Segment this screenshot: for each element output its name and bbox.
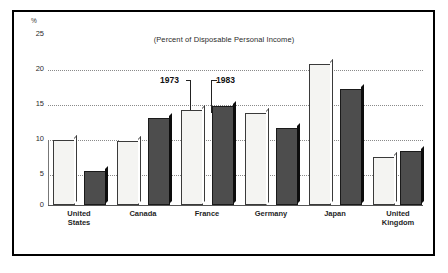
chart-title: (Percent of Disposable Personal Income) <box>0 35 448 44</box>
bar-united-kingdom-1983 <box>400 151 422 205</box>
bar-united-kingdom-1973 <box>373 157 395 205</box>
y-tick-20: 20 <box>28 64 44 73</box>
y-tick-5: 5 <box>28 169 44 178</box>
x-axis-baseline <box>48 205 423 206</box>
gridline-20 <box>48 70 423 71</box>
category-label-united-kingdom-line1: United <box>363 209 433 218</box>
category-label-germany: Germany <box>236 209 306 218</box>
bar-france-1973 <box>181 110 203 205</box>
bar-canada-1973 <box>117 141 139 205</box>
category-label-canada-line1: Canada <box>108 209 178 218</box>
category-label-france: France <box>172 209 242 218</box>
bar-japan-1973 <box>309 64 331 205</box>
category-label-united-states-line2: States <box>44 218 114 227</box>
category-label-united-kingdom-line2: Kingdom <box>363 218 433 227</box>
bar-canada-1983 <box>148 118 170 205</box>
category-label-canada: Canada <box>108 209 178 218</box>
bar-germany-1983 <box>276 128 298 205</box>
category-label-japan-line1: Japan <box>300 209 370 218</box>
y-tick-0: 0 <box>28 200 44 209</box>
chart-figure: % 25 20 15 10 5 0 (Percent of Disposable… <box>0 0 448 273</box>
bar-japan-1983 <box>340 89 362 205</box>
plot-area: % 25 20 15 10 5 0 (Percent of Disposable… <box>0 0 448 273</box>
annotation-1983: 1983 <box>216 75 235 85</box>
bar-france-1983 <box>212 106 234 205</box>
category-label-japan: Japan <box>300 209 370 218</box>
y-axis-line <box>48 140 49 205</box>
category-label-france-line1: France <box>172 209 242 218</box>
annotation-1973: 1973 <box>160 75 179 85</box>
category-label-united-states: United States <box>44 209 114 227</box>
y-tick-10: 10 <box>28 134 44 143</box>
category-label-united-states-line1: United <box>44 209 114 218</box>
bar-united-states-1973 <box>53 140 75 205</box>
bar-germany-1973 <box>245 113 267 206</box>
annotation-1983-leader-line <box>211 80 212 113</box>
category-label-united-kingdom: United Kingdom <box>363 209 433 227</box>
bar-united-states-1983 <box>84 171 106 205</box>
y-axis-unit-label: % <box>31 17 37 24</box>
y-tick-15: 15 <box>28 99 44 108</box>
category-label-germany-line1: Germany <box>236 209 306 218</box>
annotation-1973-leader-line <box>190 80 191 110</box>
